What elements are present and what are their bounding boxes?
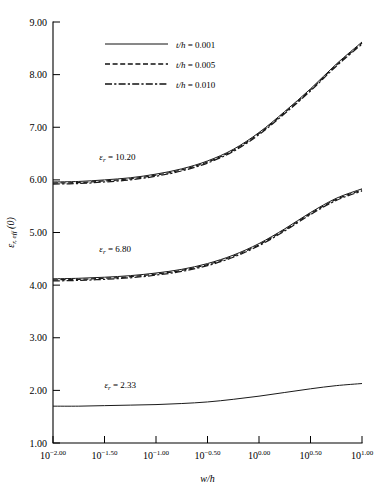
y-tick-label: 1.00 <box>30 438 48 449</box>
x-tick-label: 10−2.00 <box>40 449 67 461</box>
legend-label: t/h = 0.001 <box>176 40 215 50</box>
curve-line <box>53 384 362 407</box>
x-tick-label: 101.00 <box>351 449 374 461</box>
line-chart: 9.008.007.006.005.004.003.002.001.0010−2… <box>0 0 384 488</box>
curve-annotation: εr = 2.33 <box>105 380 137 392</box>
x-tick-label: 100.50 <box>299 449 322 461</box>
curve-group <box>53 384 362 407</box>
x-tick-label: 100.00 <box>248 449 271 461</box>
x-tick-label: 10−1.50 <box>91 449 118 461</box>
y-tick-label: 6.00 <box>30 174 48 185</box>
curve-annotations: εr = 10.20εr = 6.80εr = 2.33 <box>99 152 136 392</box>
x-axis-title: w/h <box>200 473 214 484</box>
curve-line <box>53 191 362 281</box>
curve-annotation: εr = 6.80 <box>99 244 131 256</box>
chart-legend: t/h = 0.001t/h = 0.005t/h = 0.010 <box>105 40 216 90</box>
y-tick-label: 2.00 <box>30 385 48 396</box>
curve-group <box>53 189 362 281</box>
y-tick-label: 8.00 <box>30 69 48 80</box>
curves <box>53 42 362 406</box>
curve-line <box>53 190 362 280</box>
x-tick-label: 10−0.50 <box>194 449 221 461</box>
y-tick-label: 4.00 <box>30 280 48 291</box>
curve-annotation: εr = 10.20 <box>99 152 136 164</box>
legend-label: t/h = 0.005 <box>176 60 216 70</box>
y-tick-label: 5.00 <box>30 227 48 238</box>
legend-label: t/h = 0.010 <box>176 80 216 90</box>
y-axis-title: εr, eff (0) <box>5 217 18 248</box>
y-tick-label: 7.00 <box>30 122 48 133</box>
y-tick-label: 3.00 <box>30 332 48 343</box>
chart-figure: 9.008.007.006.005.004.003.002.001.0010−2… <box>0 0 384 488</box>
x-tick-label: 10−1.00 <box>143 449 170 461</box>
y-tick-label: 9.00 <box>30 17 48 28</box>
